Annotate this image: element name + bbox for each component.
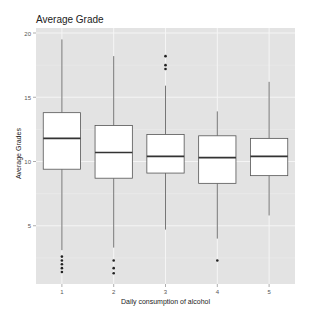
x-tick-label: 4 <box>216 289 220 295</box>
x-tick-label: 5 <box>267 289 271 295</box>
box-iqr <box>147 135 184 174</box>
outlier-point <box>61 267 64 270</box>
outlier-point <box>61 259 64 262</box>
outlier-point <box>112 272 115 275</box>
y-tick-label: 20 <box>24 31 31 37</box>
outlier-point <box>112 259 115 262</box>
x-tick-label: 2 <box>112 289 116 295</box>
outlier-point <box>164 55 167 58</box>
outlier-point <box>61 255 64 258</box>
boxplot-chart: 510152012345 <box>0 0 312 317</box>
y-tick-label: 10 <box>24 159 31 165</box>
outlier-point <box>112 267 115 270</box>
y-tick-label: 5 <box>28 223 32 229</box>
box-iqr <box>43 113 80 170</box>
outlier-point <box>164 68 167 71</box>
outlier-point <box>61 271 64 274</box>
outlier-point <box>164 64 167 67</box>
box-iqr <box>199 136 236 184</box>
x-tick-label: 3 <box>164 289 168 295</box>
y-tick-label: 15 <box>24 95 31 101</box>
outlier-point <box>216 259 219 262</box>
outlier-point <box>61 263 64 266</box>
x-tick-label: 1 <box>60 289 64 295</box>
